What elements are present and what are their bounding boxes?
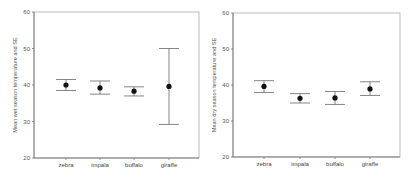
mean-marker [131,89,136,94]
y-axis-label: Mean wet season temperature and SE [12,37,18,133]
dry-season-plot: 2030405060Mean dry season temperature an… [205,0,415,178]
y-tick-label: 30 [23,119,30,125]
y-tick-label: 40 [23,82,30,88]
y-tick-label: 50 [222,46,229,52]
mean-marker [367,86,372,91]
errorbar-zebra [254,81,274,93]
errorbar-impala [90,81,110,94]
y-axis-label: Mean dry season temperature and SE [211,37,217,132]
x-category-label-giraffe: giraffe [362,161,379,167]
x-category-label-buffalo: buffalo [326,161,345,167]
errorbar-zebra [56,80,76,91]
mean-marker [332,95,337,100]
mean-marker [297,96,302,101]
mean-marker [166,84,171,89]
errorbar-impala [290,94,310,103]
y-tick-label: 60 [23,9,30,15]
chart-wet-season: 2030405060Mean wet season temperature an… [0,0,210,178]
chart-dry-season: 2030405060Mean dry season temperature an… [205,0,415,178]
x-category-label-zebra: zebra [256,161,272,167]
y-tick-label: 40 [222,82,229,88]
errorbar-buffalo [325,91,345,104]
mean-marker [63,82,68,87]
y-tick-label: 20 [222,154,229,160]
errorbar-giraffe [159,49,179,125]
x-category-label-impala: impala [91,162,109,168]
errorbar-giraffe [360,82,380,96]
plot-frame [34,12,199,158]
y-tick-label: 60 [222,10,229,16]
x-category-label-giraffe: giraffe [161,162,178,168]
wet-season-plot: 2030405060Mean wet season temperature an… [0,0,210,178]
y-tick-label: 50 [23,46,30,52]
mean-marker [97,85,102,90]
x-category-label-buffalo: buffalo [125,162,144,168]
x-category-label-zebra: zebra [58,162,74,168]
errorbar-buffalo [124,87,144,96]
x-category-label-impala: impala [291,161,309,167]
y-tick-label: 20 [23,155,30,161]
y-tick-label: 30 [222,118,229,124]
mean-marker [261,84,266,89]
plot-frame [233,13,400,157]
